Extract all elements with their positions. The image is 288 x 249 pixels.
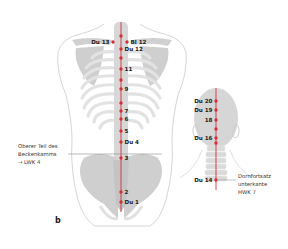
back-point-5 bbox=[119, 129, 122, 132]
back-point-label-11: 11 bbox=[125, 66, 133, 72]
back-point-du-1 bbox=[119, 200, 122, 203]
head-point-du-20 bbox=[214, 99, 217, 102]
back-point-unlabeled-4 bbox=[119, 56, 122, 59]
back-point-label-du-4: Du 4 bbox=[125, 139, 140, 145]
back-point-label-du-1: Du 1 bbox=[125, 199, 140, 205]
back-point-label-2: 2 bbox=[125, 189, 129, 195]
back-point-2 bbox=[119, 190, 122, 193]
pelvis-right bbox=[124, 154, 162, 218]
head-point-du-19 bbox=[214, 108, 217, 111]
panel-label: b bbox=[55, 216, 61, 225]
annotation-iliac-line-2: Beckenkamms bbox=[18, 151, 57, 157]
back-point-label-3: 3 bbox=[125, 155, 129, 161]
annotation-iliac-line-1: Oberer Teil des bbox=[18, 143, 58, 149]
back-point-unlabeled-0 bbox=[119, 34, 122, 37]
head-point-18 bbox=[214, 118, 217, 121]
back-point-du-13 bbox=[111, 40, 114, 43]
back-point-unlabeled-8 bbox=[119, 101, 122, 104]
annotation-iliac-line-3: → LWK 4 bbox=[18, 159, 41, 165]
back-point-label-bl-12: Bl 12 bbox=[131, 39, 147, 45]
annotation-hwk7-line-2: unterkante bbox=[238, 181, 267, 187]
back-point-7 bbox=[119, 109, 122, 112]
head-point-label-du-16: Du 16 bbox=[194, 135, 212, 141]
head-point-label-du-20: Du 20 bbox=[194, 98, 212, 104]
back-point-unlabeled-6 bbox=[119, 78, 122, 81]
back-view: Du 13Bl 12Du 12119765Du 432Du 1 Oberer T… bbox=[18, 22, 186, 226]
back-point-3 bbox=[119, 156, 122, 159]
back-point-label-5: 5 bbox=[125, 128, 129, 134]
head-point-du-16 bbox=[214, 136, 217, 139]
back-point-label-6: 6 bbox=[125, 116, 129, 122]
back-point-bl-12 bbox=[125, 40, 128, 43]
pelvis-left bbox=[80, 154, 118, 218]
head-point-du-14 bbox=[214, 178, 217, 181]
annotation-hwk7-line-3: HWK 7 bbox=[238, 189, 256, 195]
back-point-du-12 bbox=[119, 47, 122, 50]
head-point-label-du-14: Du 14 bbox=[194, 177, 212, 183]
back-point-du-4 bbox=[119, 140, 122, 143]
back-point-label-7: 7 bbox=[125, 108, 129, 114]
annotation-hwk7-line-1: Dornfortsatz bbox=[238, 173, 271, 179]
head-point-label-du-19: Du 19 bbox=[194, 107, 212, 113]
back-point-label-9: 9 bbox=[125, 86, 129, 92]
back-point-label-du-12: Du 12 bbox=[125, 46, 143, 52]
back-point-label-du-13: Du 13 bbox=[91, 39, 109, 45]
head-point-label-18: 18 bbox=[205, 117, 213, 123]
back-point-11 bbox=[119, 67, 122, 70]
head-view: Du 20Du 1918Du 16Du 14 Dornfortsatz unte… bbox=[180, 88, 271, 195]
governing-vessel-diagram: Du 13Bl 12Du 12119765Du 432Du 1 Oberer T… bbox=[0, 0, 288, 249]
back-point-9 bbox=[119, 87, 122, 90]
head-point-unlabeled-3 bbox=[214, 127, 217, 130]
back-point-6 bbox=[119, 117, 122, 120]
head-point-unlabeled-5 bbox=[214, 141, 217, 144]
